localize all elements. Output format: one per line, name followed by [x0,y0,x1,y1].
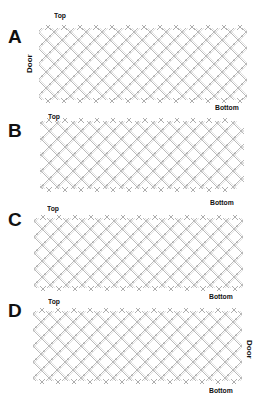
lattice-diagram-c [37,218,240,288]
bottom-label-b: Bottom [210,199,234,207]
panel-label-a: A [8,27,22,46]
lattice-diagram-b [43,121,241,189]
bottom-label-a: Bottom [215,104,239,112]
panel-label-d: D [8,301,22,320]
door-label-d: Door [245,340,253,359]
panel-label-c: C [8,210,22,229]
panel-label-b: B [8,121,22,140]
lattice-diagram-d [36,311,239,381]
top-label-c: Top [47,205,59,213]
bottom-label-d: Bottom [209,387,233,395]
bottom-label-c: Bottom [209,293,233,301]
top-label-b: Top [48,113,60,121]
door-label-a: Door [26,54,34,73]
lattice-diagram-a [42,28,244,100]
top-label-a: Top [54,12,66,20]
top-label-d: Top [48,298,60,306]
